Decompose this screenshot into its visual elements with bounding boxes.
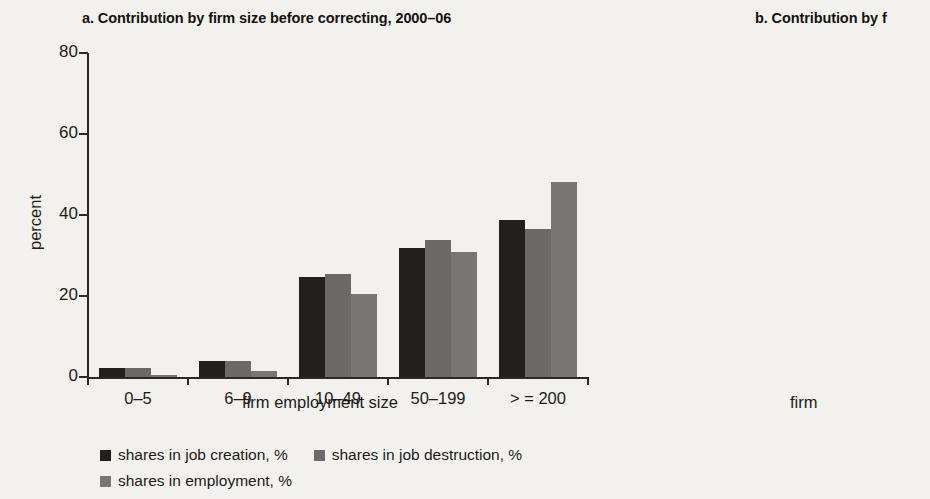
x-axis-tick-label: 10–49 [288,389,388,408]
y-axis-tick [79,52,88,54]
bar [225,361,251,377]
legend-row: shares in job creation, %shares in job d… [100,446,640,472]
panel-b-title: b. Contribution by f [755,10,887,26]
bar [125,368,151,377]
legend-swatch [100,450,111,461]
y-axis-tick-label: 60 [38,123,78,143]
panel-a: a. Contribution by firm size before corr… [0,0,640,499]
bar [325,274,351,377]
x-axis-tick [187,377,189,385]
x-axis-tick-label: 0–5 [88,389,188,408]
figure-container: a. Contribution by firm size before corr… [0,0,930,499]
bar [99,368,125,377]
x-axis-tick-label: > = 200 [488,389,588,408]
bar [525,229,551,377]
bar [551,182,577,377]
bar [251,371,277,377]
panel-a-title: a. Contribution by firm size before corr… [82,10,451,26]
legend-item: shares in job destruction, % [314,446,522,464]
x-axis-tick [587,377,589,385]
panel-a-x-axis-line [87,377,588,379]
x-axis-tick-label: 6–9 [188,389,288,408]
y-axis-tick [79,295,88,297]
legend-label: shares in job destruction, % [332,446,522,464]
legend-row: shares in employment, % [100,472,640,498]
legend-label: shares in employment, % [118,472,292,490]
bar [351,294,377,377]
panel-b-x-axis-title: firm [790,393,818,412]
bar [151,375,177,377]
bar [199,361,225,377]
panel-b: b. Contribution by f percent firm 020406… [640,0,930,499]
panel-a-legend: shares in job creation, %shares in job d… [100,446,640,498]
y-axis-tick [79,133,88,135]
legend-item: shares in employment, % [100,472,292,490]
y-axis-tick-label: 20 [38,285,78,305]
legend-item: shares in job creation, % [100,446,288,464]
x-axis-tick [487,377,489,385]
bar [499,220,525,377]
panel-a-plot-area: 0204060800–56–910–4950–199> = 200 [88,53,588,377]
x-axis-tick-label: 50–199 [388,389,488,408]
legend-swatch [314,450,325,461]
y-axis-tick-label: 80 [38,42,78,62]
legend-label: shares in job creation, % [118,446,288,464]
bar [299,277,325,377]
y-axis-tick-label: 0 [38,366,78,386]
x-axis-tick [287,377,289,385]
bar [425,240,451,377]
bar [399,248,425,377]
x-axis-tick [387,377,389,385]
x-axis-tick [87,377,89,385]
y-axis-tick [79,214,88,216]
bar [451,252,477,377]
y-axis-tick-label: 40 [38,204,78,224]
legend-swatch [100,476,111,487]
